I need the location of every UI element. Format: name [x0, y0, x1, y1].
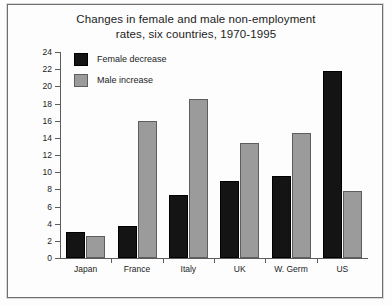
bar-japan-male	[86, 236, 105, 258]
bar-uk-male	[240, 143, 259, 258]
x-axis-label-us: US	[317, 264, 368, 274]
bar-france-female	[118, 226, 137, 258]
y-axis-line	[60, 52, 61, 259]
y-axis-tick	[55, 138, 60, 139]
y-axis-tick	[55, 172, 60, 173]
x-axis-tick	[214, 259, 215, 263]
x-axis-label-france: France	[111, 264, 162, 274]
bar-japan-female	[66, 232, 85, 258]
y-axis-tick	[55, 52, 60, 53]
y-axis-tick	[55, 241, 60, 242]
x-axis-label-wgerm: W. Germ	[265, 264, 316, 274]
legend-swatch-icon	[74, 74, 88, 87]
bar-wgerm-female	[272, 176, 291, 258]
y-axis-label: 18	[30, 99, 52, 109]
y-axis-label: 24	[30, 47, 52, 57]
y-axis-label: 22	[30, 64, 52, 74]
x-axis-tick	[111, 259, 112, 263]
x-axis-tick	[265, 259, 266, 263]
bar-italy-male	[189, 99, 208, 258]
y-axis-label: 4	[30, 219, 52, 229]
y-axis-tick	[55, 155, 60, 156]
bar-wgerm-male	[292, 133, 311, 258]
y-axis-tick	[55, 121, 60, 122]
y-axis-label: 12	[30, 150, 52, 160]
plot-area: 024681012141618202224 JapanFranceItalyUK…	[0, 0, 392, 306]
y-axis-label: 8	[30, 184, 52, 194]
y-axis-label: 16	[30, 116, 52, 126]
x-axis-label-italy: Italy	[163, 264, 214, 274]
legend-label: Male increase	[97, 75, 153, 85]
bar-france-male	[138, 121, 157, 258]
y-axis-tick	[55, 69, 60, 70]
y-axis-tick	[55, 104, 60, 105]
y-axis-tick	[55, 86, 60, 87]
y-axis-label: 6	[30, 202, 52, 212]
y-axis-label: 0	[30, 253, 52, 263]
legend-label: Female decrease	[97, 54, 167, 64]
x-axis-tick	[317, 259, 318, 263]
bar-us-male	[343, 191, 362, 258]
chart-figure: Changes in female and male non-employmen…	[0, 0, 392, 306]
y-axis-label: 20	[30, 81, 52, 91]
y-axis-label: 14	[30, 133, 52, 143]
x-axis-tick	[163, 259, 164, 263]
y-axis-tick	[55, 207, 60, 208]
bar-uk-female	[220, 181, 239, 258]
x-axis-label-uk: UK	[214, 264, 265, 274]
y-axis-tick	[55, 258, 60, 259]
y-axis-tick	[55, 224, 60, 225]
legend-swatch-icon	[74, 53, 88, 66]
y-axis-label: 10	[30, 167, 52, 177]
bar-italy-female	[169, 195, 188, 258]
y-axis-tick	[55, 189, 60, 190]
x-axis-label-japan: Japan	[60, 264, 111, 274]
bar-us-female	[323, 71, 342, 258]
y-axis-label: 2	[30, 236, 52, 246]
